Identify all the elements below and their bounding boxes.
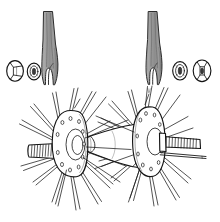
hub-assembly-illustration — [0, 0, 220, 222]
figure-root — [0, 0, 220, 222]
washer-left — [27, 63, 40, 80]
axle-nut-right — [193, 60, 211, 82]
washer-right — [173, 62, 188, 80]
axle-nut-left — [7, 61, 24, 82]
figure-background — [0, 0, 220, 222]
